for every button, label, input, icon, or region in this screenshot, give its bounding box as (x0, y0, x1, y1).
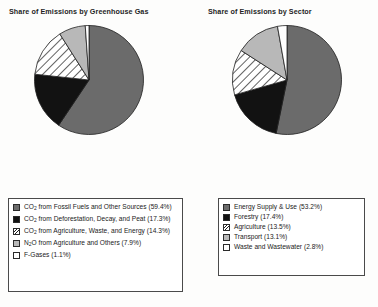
legend-label: Transport (13.1%) (234, 233, 287, 242)
legend-swatch-solid-gray-icon (223, 204, 230, 211)
legend-item: Waste and Wastewater (2.8%) (223, 243, 361, 252)
legend-swatch-solid-black-icon (13, 216, 20, 223)
chart-title-greenhouse-gas: Share of Emissions by Greenhouse Gas (9, 7, 149, 16)
legend-label: N2O from Agriculture and Others (7.9%) (24, 239, 141, 249)
pie-svg-greenhouse-gas (33, 24, 145, 136)
legend-swatch-white-icon (13, 252, 20, 259)
legend-label: Forestry (17.4%) (234, 213, 283, 222)
legend-label: CO2 from Deforestation, Decay, and Peat … (24, 215, 170, 225)
legend-label: F-Gases (1.1%) (24, 251, 71, 260)
legend-label: CO2 from Fossil Fuels and Other Sources … (24, 203, 172, 213)
legend-label: CO2 from Agriculture, Waste, and Energy … (24, 227, 170, 237)
legend-item: CO2 from Agriculture, Waste, and Energy … (13, 227, 179, 237)
pie-chart-greenhouse-gas (33, 24, 145, 136)
legend-item: F-Gases (1.1%) (13, 251, 179, 260)
legend-label: Waste and Wastewater (2.8%) (234, 243, 323, 252)
legend-label: Energy Supply & Use (53.2%) (234, 203, 322, 212)
legend-item: Agriculture (13.5%) (223, 223, 361, 232)
pie-svg-sector (231, 24, 343, 136)
legend-swatch-hatched-icon (223, 224, 230, 231)
legend-item: N2O from Agriculture and Others (7.9%) (13, 239, 179, 249)
legend-item: Forestry (17.4%) (223, 213, 361, 222)
legend-item: CO2 from Fossil Fuels and Other Sources … (13, 203, 179, 213)
pie-slices-sector (233, 25, 342, 134)
chart-panel-greenhouse-gas: Share of Emissions by Greenhouse Gas CO2… (0, 0, 189, 307)
legend-item: Energy Supply & Use (53.2%) (223, 203, 361, 212)
legend-swatch-solid-gray-icon (13, 204, 20, 211)
chart-title-sector: Share of Emissions by Sector (208, 7, 312, 16)
legend-swatch-hatched-icon (13, 228, 20, 235)
legend-swatch-light-gray-icon (13, 240, 20, 247)
legend-greenhouse-gas: CO2 from Fossil Fuels and Other Sources … (8, 198, 183, 292)
chart-panel-sector: Share of Emissions by Sector Energy Supp… (189, 0, 378, 307)
legend-swatch-light-gray-icon (223, 234, 230, 241)
legend-swatch-white-icon (223, 244, 230, 251)
legend-swatch-solid-black-icon (223, 214, 230, 221)
legend-label: Agriculture (13.5%) (234, 223, 291, 232)
legend-item: CO2 from Deforestation, Decay, and Peat … (13, 215, 179, 225)
legend-sector: Energy Supply & Use (53.2%) Forestry (17… (218, 198, 365, 276)
legend-item: Transport (13.1%) (223, 233, 361, 242)
pie-slices-greenhouse-gas (34, 26, 143, 135)
pie-chart-sector (231, 24, 343, 136)
